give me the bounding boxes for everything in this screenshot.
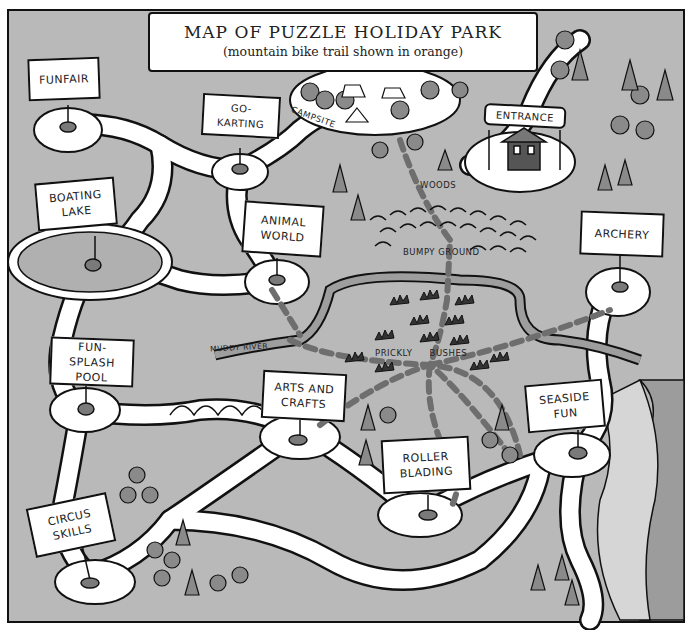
sign-seaside-fun[interactable]: Seaside Fun (524, 379, 606, 434)
label-woods: Woods (420, 180, 456, 190)
map-subtitle: (mountain bike trail shown in orange) (150, 44, 536, 59)
label-prickly-bushes: Prickly Bushes (375, 348, 467, 358)
sign-entrance[interactable]: Entrance (483, 103, 566, 129)
sign-arts-and-crafts[interactable]: Arts and Crafts (261, 370, 347, 422)
sign-roller-blading[interactable]: Roller Blading (381, 436, 472, 495)
sign-funfair[interactable]: Funfair (27, 57, 100, 101)
sign-boating-lake[interactable]: Boating Lake (34, 177, 118, 232)
map-title-banner: MAP OF PUZZLE HOLIDAY PARK (mountain bik… (148, 12, 538, 72)
map-title: MAP OF PUZZLE HOLIDAY PARK (150, 22, 536, 42)
label-bumpy-ground: Bumpy Ground (403, 247, 480, 257)
sign-animal-world[interactable]: Animal World (241, 200, 324, 257)
sign-fun-splash-pool[interactable]: Fun-Splash Pool (49, 337, 135, 388)
sign-archery[interactable]: Archery (579, 211, 664, 258)
sign-go-karting[interactable]: Go-Karting (201, 93, 281, 139)
